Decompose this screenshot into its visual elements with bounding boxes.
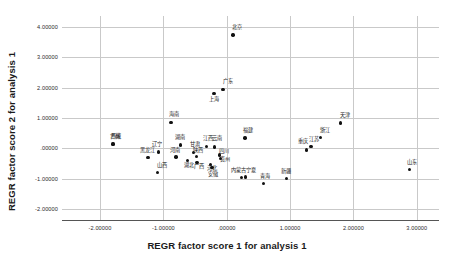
data-point-label: 云南 [212,136,222,141]
data-point [146,156,149,159]
data-point [221,88,224,91]
data-point [169,121,172,124]
data-point [174,155,177,158]
data-point-label: 吉林 [110,134,120,139]
data-point [262,182,265,185]
data-point-label: 宁夏 [246,168,256,173]
x-tick-label: -2.00000 [70,225,130,231]
data-point-label: 天津 [340,113,350,118]
gridline-horizontal [62,88,439,89]
scatter-plot-figure: REGR factor score 2 for analysis 1 REGR … [0,0,454,263]
data-point [305,148,308,151]
data-point [309,145,312,148]
y-tick-label: .00000 [16,145,58,151]
y-tick-label: -2.00000 [16,206,58,212]
data-point-label: 重庆 [298,139,308,144]
data-point [231,33,234,36]
data-point-label: 黑龙江 [140,148,155,153]
y-tick-label: 4.00000 [16,24,58,30]
y-tick-label: 2.00000 [16,85,58,91]
x-axis-line [62,220,439,221]
y-tick-label: 1.00000 [16,115,58,121]
data-point-label: 广西 [194,164,204,169]
x-tick-label: 3.00000 [387,225,447,231]
data-point [157,150,160,153]
data-point-label: 山西 [157,163,167,168]
data-point-label: 湖南 [175,135,185,140]
data-point [210,166,213,169]
data-point-label: 贵州 [220,157,230,162]
data-point-label: 四川 [219,149,229,154]
data-point-label: 安徽 [208,172,218,177]
data-point-label: 上海 [209,97,219,102]
gridline-horizontal [62,148,439,149]
y-tick-label: 3.00000 [16,54,58,60]
y-axis-title: REGR factor score 2 for analysis 1 [0,0,22,263]
data-point-label: 福建 [243,128,253,133]
plot-area: 北京广东上海海南天津浙江福建江苏重庆西藏湖南江西云南辽宁甘肃黑龙江河南陕西四川湖… [62,16,439,220]
data-point [156,171,159,174]
data-point [319,136,322,139]
gridline-horizontal [62,179,439,180]
data-point-label: 湖北 [184,163,194,168]
x-axis-title: REGR factor score 1 for analysis 1 [0,240,454,251]
data-point-label: 青海 [260,174,270,179]
data-point-label: 内蒙古 [231,168,246,173]
gridline-horizontal [62,209,439,210]
data-point [195,155,198,158]
data-point [240,176,243,179]
data-point-label: 北京 [232,25,242,30]
data-point-label: 浙江 [320,128,330,133]
data-point [408,168,411,171]
data-point-label: 山东 [407,160,417,165]
x-tick-label: 2.00000 [323,225,383,231]
gridline-horizontal [62,118,439,119]
x-tick-label: -1.00000 [133,225,193,231]
x-tick-label: 1.00000 [260,225,320,231]
data-point-label: 河南 [170,148,180,153]
data-point-label: 新疆 [281,169,291,174]
data-point [339,121,342,124]
data-point-label: 海南 [169,112,179,117]
gridline-horizontal [62,57,439,58]
data-point-label: 陕西 [193,148,203,153]
data-point [243,136,246,139]
data-point-label: 广东 [223,79,233,84]
x-tick-label: .00000 [197,225,257,231]
data-point-label: 江苏 [309,137,319,142]
y-tick-label: -1.00000 [16,176,58,182]
gridline-horizontal [62,27,439,28]
